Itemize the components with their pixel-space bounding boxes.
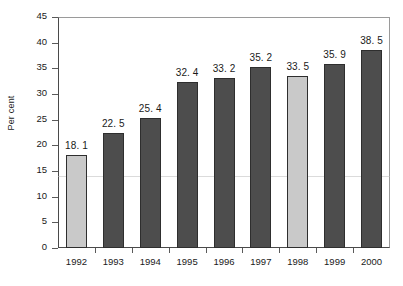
- y-axis-tick: 30: [0, 94, 58, 95]
- x-axis-tick-mark: [95, 248, 96, 253]
- bar-chart: Per cent 454035302520151050 18. 122. 525…: [0, 0, 403, 286]
- y-axis-tick: 40: [0, 43, 58, 44]
- y-axis-tick-mark: [52, 43, 58, 44]
- y-axis-tick-label: 40: [36, 36, 47, 47]
- y-axis-tick-mark: [52, 94, 58, 95]
- y-axis-title: Per cent: [6, 83, 16, 143]
- y-axis-tick: 20: [0, 145, 58, 146]
- bar-1993: [103, 133, 124, 249]
- bar-value-label: 35. 9: [313, 49, 357, 60]
- y-axis-tick-mark: [52, 197, 58, 198]
- y-axis-tick: 45: [0, 17, 58, 18]
- y-axis-tick: 35: [0, 68, 58, 69]
- y-axis-tick-label: 5: [42, 215, 47, 226]
- bar-value-label: 22. 5: [91, 118, 135, 129]
- y-axis-tick-mark: [52, 248, 58, 249]
- bar-1998: [287, 76, 308, 248]
- y-axis-tick-label: 15: [36, 164, 47, 175]
- x-axis-label-2000: 2000: [350, 256, 394, 267]
- y-axis-tick-mark: [52, 171, 58, 172]
- y-axis-tick: 15: [0, 171, 58, 172]
- x-axis-tick-mark: [206, 248, 207, 253]
- bar-1995: [177, 82, 198, 248]
- bar-2000: [361, 50, 382, 248]
- y-axis-tick-label: 20: [36, 138, 47, 149]
- bar-1997: [250, 67, 271, 248]
- y-axis-tick-label: 35: [36, 61, 47, 72]
- x-axis-tick-mark: [242, 248, 243, 253]
- x-axis-tick-mark: [169, 248, 170, 253]
- y-axis-tick: 5: [0, 222, 58, 223]
- x-axis-tick-mark: [316, 248, 317, 253]
- bar-1994: [140, 118, 161, 248]
- bar-value-label: 33. 2: [202, 63, 246, 74]
- y-axis-tick-mark: [52, 222, 58, 223]
- y-axis-tick-label: 10: [36, 190, 47, 201]
- bar-1996: [214, 78, 235, 248]
- bar-value-label: 25. 4: [128, 103, 172, 114]
- y-axis-tick: 0: [0, 248, 58, 249]
- bar-value-label: 18. 1: [54, 140, 98, 151]
- bar-1999: [324, 64, 345, 248]
- y-axis-tick-mark: [52, 68, 58, 69]
- y-axis-tick-label: 25: [36, 113, 47, 124]
- x-axis-tick-mark: [353, 248, 354, 253]
- bar-1992: [66, 155, 87, 248]
- y-axis-tick: 25: [0, 120, 58, 121]
- y-axis-tick-mark: [52, 120, 58, 121]
- y-axis-tick-label: 45: [36, 10, 47, 21]
- x-axis-tick-mark: [132, 248, 133, 253]
- x-axis-tick-mark: [279, 248, 280, 253]
- y-axis-tick-mark: [52, 17, 58, 18]
- bar-value-label: 38. 5: [350, 35, 394, 46]
- y-axis-tick: 10: [0, 197, 58, 198]
- bar-value-label: 33. 5: [276, 61, 320, 72]
- y-axis-tick-label: 0: [42, 241, 47, 252]
- y-axis-tick-label: 30: [36, 87, 47, 98]
